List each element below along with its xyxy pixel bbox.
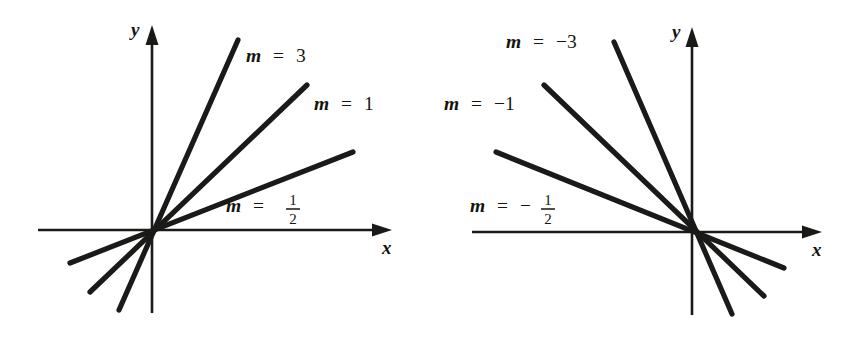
label-m-3: m = 3 [246,45,306,66]
label-m-negative-one-half: m = − 1 2 [470,192,555,227]
label-m-3-var: m [246,45,261,66]
label-m-one-half: m = 1 2 [226,192,300,227]
label-m-1-var: m [314,93,329,114]
slope-figure: x y m = 3 m = 1 [0,0,853,341]
x-axis-arrow-icon [372,224,392,237]
line-m-negative-one-half [496,152,784,268]
svg-text:m = −3: m = −3 [506,31,577,52]
svg-text:m = 1: m = 1 [314,93,374,114]
label-m-neg3-value: −3 [556,31,577,52]
label-m-negative-3: m = −3 [506,31,577,52]
y-axis-label: y [670,21,681,42]
x-axis-arrow-icon [802,226,822,239]
y-axis-group-right: y [670,21,699,315]
y-axis-group-left: y [129,19,159,313]
panel-negative-slopes: x y m = −3 m = −1 [426,0,853,341]
label-m-3-equals: = [273,45,284,66]
label-m-1-equals: = [341,93,352,114]
label-m-3-value: 3 [296,45,306,66]
label-m-neghalf-equals: = [497,195,508,216]
label-m-half-numerator: 1 [289,192,297,208]
svg-text:m =: m = [226,195,264,216]
label-m-neg3-var: m [506,31,521,52]
y-axis-arrow-icon [686,27,699,47]
x-axis-label: x [381,237,392,258]
label-m-1: m = 1 [314,93,374,114]
label-m-neghalf-denominator: 2 [544,211,552,227]
svg-text:m = −1: m = −1 [444,93,515,114]
svg-text:m = 3: m = 3 [246,45,306,66]
line-m-3 [119,40,238,310]
label-m-neg1-equals: = [471,93,482,114]
line-m-one-half [70,152,353,263]
label-m-neg1-value: −1 [494,93,515,114]
label-m-1-value: 1 [364,93,374,114]
label-m-neghalf-var: m [470,195,485,216]
line-m-1 [90,85,307,292]
x-axis-label: x [811,239,822,260]
y-axis-arrow-icon [146,25,159,45]
label-m-negative-1: m = −1 [444,93,515,114]
y-axis-label: y [129,19,140,40]
label-m-neg3-equals: = [533,31,544,52]
label-m-half-denominator: 2 [289,211,297,227]
label-m-neghalf-minus-sign: − [520,195,531,216]
svg-text:m = −: m = − [470,195,531,216]
label-m-neghalf-numerator: 1 [544,192,552,208]
x-axis-group-right: x [472,226,822,261]
label-m-neg1-var: m [444,93,459,114]
line-m-negative-3 [614,42,732,314]
label-m-half-var: m [226,195,241,216]
panel-positive-slopes: x y m = 3 m = 1 [0,0,427,341]
label-m-half-equals: = [253,195,264,216]
line-m-negative-1 [544,85,764,296]
